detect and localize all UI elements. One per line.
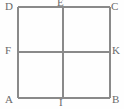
vertex-label-K: K [112,45,120,56]
geometry-canvas [0,0,124,109]
vertex-label-I: I [59,97,63,108]
vertex-label-C: C [111,1,118,12]
vertex-label-A: A [5,94,13,105]
vertex-label-D: D [5,1,13,12]
vertex-label-E: E [57,0,64,8]
geometry-figure: D E C F K A I B [0,0,124,109]
vertex-label-F: F [5,45,11,56]
vertex-label-B: B [112,94,119,105]
